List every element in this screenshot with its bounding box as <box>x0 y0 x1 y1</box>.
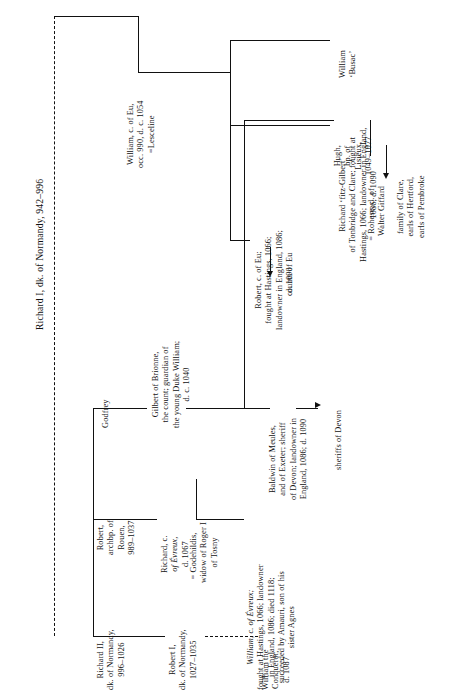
node-baldwin-line-3: England, 1086; d. 1090 <box>299 418 309 500</box>
genealogy-plate: Richard I, dk. of Normandy, 942–996 Rich… <box>0 0 460 691</box>
node-robert-archbp-line-0: Robert, <box>96 520 106 555</box>
connector-root-top <box>54 16 138 17</box>
node-richard-evreux-line-0: Richard, c. <box>160 535 170 573</box>
node-william-busac-line-1: ‘Busac’ <box>348 50 358 78</box>
connector-william-eu-to-children <box>138 72 230 73</box>
node-rohese-line-1: Walter Giffard <box>377 186 387 243</box>
node-robert-i-line-2: 1027–1035 <box>189 629 199 690</box>
node-richard-ii-line-0: Richard II, <box>96 629 106 690</box>
connector-root-dashed <box>54 16 55 636</box>
node-gilbert-line-2: the young Duke William; <box>172 341 182 428</box>
node-richard-evreux-line-1: of Évreux, <box>170 535 180 573</box>
node-godehildis-line-2: of Tosny <box>210 522 220 590</box>
node-godehildis-line-0: Godehildis, <box>189 533 198 573</box>
node-godehildis-line-1: widow of Roger I <box>199 522 209 590</box>
node-richard-ii-line-2: 996–1026 <box>117 629 127 690</box>
node-william-evreux-line-4: sister Agnes <box>287 564 297 690</box>
node-richard-ii: Richard II, dk. of Normandy, 996–1026 <box>96 629 127 690</box>
connector-tick-baldwin <box>244 408 270 409</box>
node-baldwin-of-meules: Baldwin of Meules, and of Exeter; sherif… <box>268 418 309 500</box>
node-godfrey: Godfrey <box>101 399 111 428</box>
connector-baldwin-to-sheriffs <box>296 408 318 409</box>
arrow-sheriffs-of-devon <box>315 402 321 408</box>
connector-tick-william-busac <box>230 40 330 41</box>
node-richard-count-of-evreux: Richard, c. of Évreux, d. 1067 <box>160 535 191 573</box>
node-william-evreux-line-2: in England, 1086; died 1118; <box>267 564 277 690</box>
node-rohese-line-0: Rohese, d. of <box>367 188 376 234</box>
node-richard-i-line-0: Richard I, dk. of Normandy, 942–996 <box>34 179 46 330</box>
node-robert-eu-line-1: fought at Hastings, 1066; <box>264 230 274 330</box>
node-baldwin-line-0: Baldwin of Meules, <box>268 418 278 500</box>
connector-gilbert-children-bar <box>244 120 245 408</box>
connector-fitz-gilbert-to-clare <box>386 145 387 175</box>
arrow-family-of-clare <box>383 173 389 179</box>
node-william-busac-line-0: William <box>338 50 348 78</box>
godehildis-row-0: = Godehildis, <box>189 522 199 590</box>
node-sheriffs-of-devon-line-0: sheriffs of Devon <box>334 410 344 470</box>
node-gilbert-line-3: d. c. 1040 <box>182 341 192 428</box>
node-robert-archbp-line-2: Rouen, <box>117 520 127 555</box>
node-gilbert-line-1: the count; guardian of <box>161 341 171 428</box>
node-baldwin-line-2: of Devon; landowner in <box>289 418 299 500</box>
node-clare-line-1: earls of Hertford, <box>406 175 416 238</box>
node-robert-eu-line-0: Robert, c. of Eu; <box>254 230 264 330</box>
node-richard-ii-line-1: dk. of Normandy, <box>106 629 116 690</box>
rohese-row-0: = Rohese, d. of <box>367 186 377 243</box>
connector-tick-richard-fitz-gilbert <box>244 120 334 121</box>
node-clare-line-2: earls of Pembroke <box>417 175 427 238</box>
node-robert-archbishop-rouen: Robert, archbp. of Rouen, 989–1037 <box>96 520 137 555</box>
node-clare-line-0: family of Clare, <box>396 175 406 238</box>
connector-gilbert-stem <box>186 408 244 409</box>
node-godehildis: = Godehildis, widow of Roger I of Tosny <box>189 522 220 590</box>
node-gilbert-line-0: Gilbert of Brionne, <box>151 341 161 428</box>
node-william-eu-spouse-row: =Lesceline <box>147 100 157 168</box>
node-fitz-gilbert-line-0: Richard ‘fitz-Gilbert’ <box>338 128 348 262</box>
node-robert-i-normandy: Robert I, dk. of Normandy, 1027–1035 <box>168 629 199 690</box>
node-counts-of-eu-line-0: counts of Eu <box>285 252 295 296</box>
node-william-count-of-evreux: William, c. of Évreux; fought at Hasting… <box>246 564 297 690</box>
connector-tick-robert-eu <box>230 240 250 241</box>
node-rohese: = Rohese, d. of Walter Giffard <box>367 186 388 243</box>
node-william-eu-line-1: occ. 990, d. c. 1054 <box>136 100 146 168</box>
node-william-evreux-line-3: succeeded by Amauri, son of his <box>277 564 287 690</box>
node-sheriffs-of-devon: sheriffs of Devon <box>334 410 344 470</box>
connector-william-eu-drop <box>138 16 139 72</box>
node-baldwin-line-1: and of Exeter; sheriff <box>278 418 288 500</box>
marriage-equals-sign-fitz-gilbert: = <box>367 236 376 241</box>
connector-richard-evreux-marriage-drop <box>196 479 197 519</box>
node-godfrey-line-0: Godfrey <box>101 399 111 428</box>
node-gilbert-of-brionne: Gilbert of Brionne, the count; guardian … <box>151 341 192 428</box>
node-fitz-gilbert-line-1: of Tonbridge and Clare; fought at <box>348 128 358 262</box>
node-william-count-of-eu: William, c. of Eu, occ. 990, d. c. 1054 … <box>126 100 157 168</box>
node-robert-i-line-1: dk. of Normandy, <box>178 629 188 690</box>
node-robert-eu-line-2: landowner in England, 1086; <box>275 230 285 330</box>
connector-godfrey-to-gilbert <box>113 408 147 409</box>
node-lesceline: Lesceline <box>147 115 156 148</box>
node-family-of-clare: family of Clare, earls of Hertford, earl… <box>396 175 427 238</box>
connector-richard-evreux-to-william <box>196 519 244 520</box>
node-william-evreux-line-1: fought at Hastings, 1066; landowner <box>256 564 266 690</box>
marriage-equals-sign-william-eu: = <box>147 148 156 153</box>
connector-sibling-bar-1 <box>93 408 94 636</box>
node-william-busac: William ‘Busac’ <box>338 50 359 78</box>
node-william-eu-line-0: William, c. of Eu, <box>126 100 136 168</box>
node-richard-i: Richard I, dk. of Normandy, 942–996 <box>34 179 46 330</box>
connector-tick-hugh-lisieux <box>230 125 330 126</box>
connector-eu-children-bar <box>230 40 231 240</box>
node-robert-archbp-line-1: archbp. of <box>106 520 116 555</box>
node-robert-i-line-0: Robert I, <box>168 629 178 690</box>
node-robert-archbp-line-3: 989–1037 <box>127 520 137 555</box>
node-william-evreux-line-0: William, c. of Évreux; <box>246 564 256 690</box>
node-counts-of-eu: counts of Eu <box>285 252 295 296</box>
marriage-equals-sign-richard-evreux: = <box>189 575 198 580</box>
